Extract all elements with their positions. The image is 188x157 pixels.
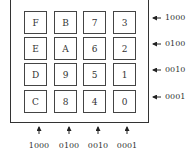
column-arrow-icons — [39, 127, 127, 134]
row-code-label: 0100 — [165, 39, 185, 49]
row-code-label: 0001 — [165, 92, 185, 102]
row-code-label: 0010 — [165, 65, 185, 75]
column-code-label: 0100 — [57, 141, 81, 151]
signal-arrows — [0, 0, 188, 157]
column-code-label: 0010 — [86, 141, 110, 151]
column-code-label: 0001 — [115, 141, 139, 151]
column-code-label: 1000 — [27, 141, 51, 151]
row-code-label: 1000 — [165, 13, 185, 23]
row-arrow-icons — [153, 18, 161, 97]
